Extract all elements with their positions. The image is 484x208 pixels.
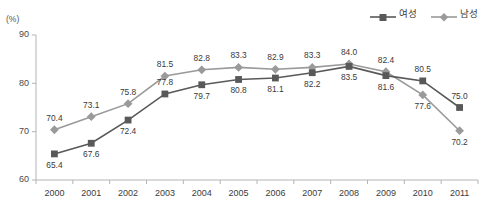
- x-tick-label: 2004: [192, 188, 212, 198]
- data-label: 81.6: [378, 82, 395, 92]
- data-point-marker[interactable]: [456, 104, 463, 111]
- data-point-marker[interactable]: [235, 76, 242, 83]
- data-point-marker[interactable]: [198, 81, 205, 88]
- data-label: 65.4: [46, 160, 63, 170]
- x-tick-label: 2005: [229, 188, 249, 198]
- data-point-marker[interactable]: [197, 65, 206, 74]
- data-point-marker[interactable]: [309, 69, 316, 76]
- x-axis-tick-labels: 2000200120022003200420052006200720082009…: [44, 188, 469, 198]
- x-tick-label: 2006: [265, 188, 285, 198]
- data-label: 82.4: [378, 55, 395, 65]
- data-label: 82.2: [304, 79, 321, 89]
- y-tick-label: 60: [19, 174, 29, 184]
- x-tick-label: 2008: [339, 188, 359, 198]
- data-point-marker[interactable]: [271, 65, 280, 74]
- data-point-marker[interactable]: [125, 117, 132, 124]
- y-tick-label: 90: [19, 29, 29, 39]
- data-point-marker[interactable]: [51, 151, 58, 158]
- series-male-line: [54, 64, 459, 131]
- y-tick-group: 60708090: [19, 29, 36, 184]
- x-tick-label: 2001: [81, 188, 101, 198]
- series-male-markers: [50, 60, 464, 136]
- data-point-marker[interactable]: [272, 75, 279, 82]
- x-tick-label: 2002: [118, 188, 138, 198]
- data-labels-female: 65.467.672.477.879.780.881.182.283.581.6…: [46, 64, 468, 170]
- data-point-marker[interactable]: [234, 63, 243, 72]
- plot-area: 60708090 70.473.175.881.582.883.382.983.…: [0, 0, 484, 208]
- data-label: 83.3: [230, 50, 247, 60]
- line-chart: (%) 여성 남성 60708090: [0, 0, 484, 208]
- data-label: 75.8: [120, 87, 137, 97]
- data-label: 77.8: [157, 77, 174, 87]
- data-label: 73.1: [83, 100, 100, 110]
- data-label: 83.5: [341, 72, 358, 82]
- data-label: 81.1: [267, 84, 284, 94]
- y-tick-label: 70: [19, 126, 29, 136]
- x-tick-label: 2000: [44, 188, 64, 198]
- x-tick-label: 2010: [413, 188, 433, 198]
- data-label: 84.0: [341, 47, 358, 57]
- series-line: [54, 64, 459, 131]
- y-tick-label: 80: [19, 78, 29, 88]
- data-label: 70.2: [451, 137, 468, 147]
- data-label: 80.8: [230, 85, 247, 95]
- data-point-marker[interactable]: [162, 91, 169, 98]
- data-label: 79.7: [194, 91, 211, 101]
- data-label: 70.4: [46, 113, 63, 123]
- x-tick-label: 2003: [155, 188, 175, 198]
- x-tick-group: [36, 180, 478, 184]
- data-label: 77.6: [415, 101, 432, 111]
- x-tick-label: 2011: [450, 188, 469, 198]
- data-label: 80.5: [415, 64, 432, 74]
- x-tick-label: 2009: [376, 188, 396, 198]
- data-label: 67.6: [83, 149, 100, 159]
- data-point-marker[interactable]: [88, 140, 95, 147]
- data-point-marker[interactable]: [419, 78, 426, 85]
- data-label: 82.9: [267, 52, 284, 62]
- x-tick-label: 2007: [302, 188, 322, 198]
- data-label: 83.3: [304, 50, 321, 60]
- data-label: 81.5: [157, 59, 174, 69]
- data-label: 75.0: [451, 91, 468, 101]
- data-label: 82.8: [194, 53, 211, 63]
- data-point-marker[interactable]: [87, 112, 96, 121]
- data-point-marker[interactable]: [346, 63, 353, 70]
- data-label: 72.4: [120, 126, 137, 136]
- data-point-marker[interactable]: [383, 72, 390, 79]
- data-point-marker[interactable]: [50, 125, 59, 134]
